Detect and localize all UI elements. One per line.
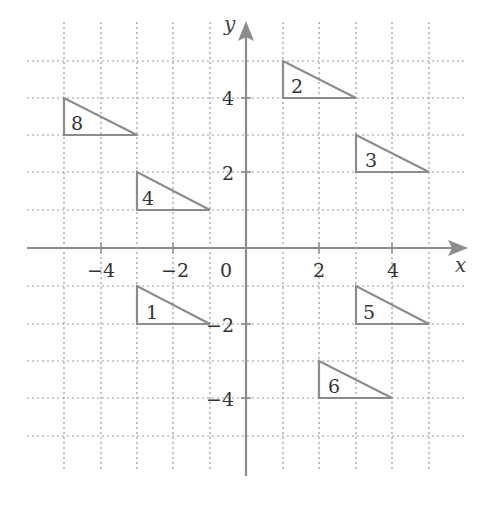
triangle-label: 4	[142, 187, 154, 209]
triangle-label: 3	[365, 149, 377, 171]
y-tick-label: −4	[206, 388, 234, 410]
y-tick-label: 2	[222, 162, 234, 184]
triangle-label: 6	[328, 375, 340, 397]
x-axis-label: x	[455, 253, 466, 277]
triangle-label: 1	[146, 301, 158, 323]
y-tick-label: 4	[222, 87, 234, 109]
triangle-label: 8	[71, 112, 83, 134]
origin-label: 0	[220, 259, 232, 281]
x-axis	[27, 240, 468, 256]
y-tick-label: −2	[206, 314, 234, 336]
coordinate-plane: y x −4 −2 0 2 4 4 2 −2 −4 8 4 2 3 1 5 6	[0, 0, 498, 506]
x-tick-label: −2	[161, 259, 189, 281]
triangle-label: 5	[363, 301, 375, 323]
y-axis-label: y	[223, 12, 236, 36]
x-tick-label: −4	[87, 259, 115, 281]
triangle-3: 3	[356, 135, 429, 172]
x-tick-label: 2	[313, 259, 325, 281]
triangle-label: 2	[291, 75, 303, 97]
x-tick-label: 4	[387, 259, 399, 281]
